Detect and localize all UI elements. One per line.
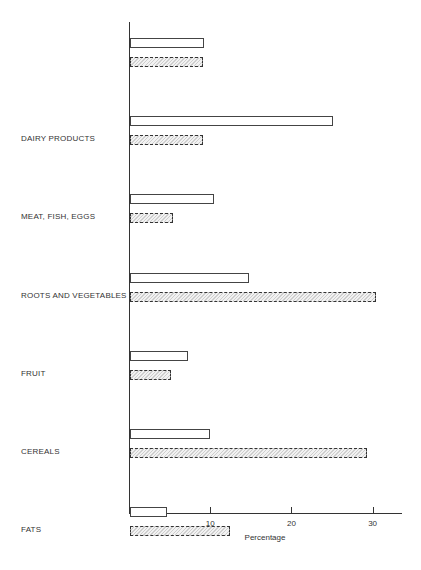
x-tick: [373, 507, 374, 513]
x-tick-label: 30: [368, 519, 377, 528]
bar-hatched: [130, 448, 367, 458]
bar-open: [130, 429, 210, 439]
bar-open: [130, 116, 333, 126]
bar-hatched: [130, 526, 230, 536]
bar-open: [130, 507, 167, 517]
y-axis-line: [129, 22, 130, 514]
category-label: CEREALS: [21, 447, 60, 456]
bar-open: [130, 194, 214, 204]
bar-hatched: [130, 370, 171, 380]
x-axis-line: [129, 513, 402, 514]
x-tick-label: 20: [287, 519, 296, 528]
bar-open: [130, 273, 249, 283]
category-label: DAIRY PRODUCTS: [21, 134, 95, 143]
category-label: FATS: [21, 525, 41, 534]
x-tick-label: 10: [206, 519, 215, 528]
bar-open: [130, 351, 188, 361]
x-tick: [210, 507, 211, 513]
category-label: MEAT, FISH, EGGS: [21, 212, 95, 221]
horizontal-bar-chart: DAIRY PRODUCTSMEAT, FISH, EGGSROOTS AND …: [0, 0, 421, 570]
x-tick: [291, 507, 292, 513]
bar-hatched: [130, 292, 376, 302]
bar-hatched: [130, 213, 173, 223]
x-axis-title: Percentage: [245, 533, 286, 542]
bar-hatched: [130, 57, 203, 67]
bar-open: [130, 38, 204, 48]
category-label: ROOTS AND VEGETABLES: [21, 291, 127, 300]
category-label: FRUIT: [21, 369, 46, 378]
bar-hatched: [130, 135, 203, 145]
